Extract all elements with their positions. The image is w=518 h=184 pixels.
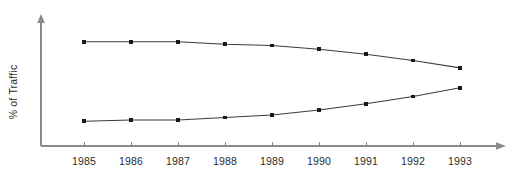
data-point-marker [82, 119, 86, 123]
data-point-marker [176, 40, 180, 44]
x-tick-label-1990: 1990 [307, 155, 331, 167]
chart-figure: 198519861987198819891990199119921993 % o… [0, 0, 518, 184]
data-point-marker [411, 95, 415, 99]
data-point-marker [82, 40, 86, 44]
x-axis-ticks [84, 142, 460, 147]
data-point-marker [364, 52, 368, 56]
data-point-marker [129, 118, 133, 122]
data-point-marker [458, 86, 462, 90]
data-point-marker [176, 118, 180, 122]
x-axis-tick-labels: 198519861987198819891990199119921993 [72, 155, 472, 167]
x-tick-label-1988: 1988 [213, 155, 237, 167]
data-point-marker [270, 113, 274, 117]
x-tick-label-1985: 1985 [72, 155, 96, 167]
data-point-marker [223, 42, 227, 46]
data-point-marker [270, 44, 274, 48]
data-point-marker [129, 40, 133, 44]
y-axis-title: % of Traffic [7, 65, 19, 120]
data-point-marker [317, 47, 321, 51]
data-point-marker [364, 102, 368, 106]
x-tick-label-1989: 1989 [260, 155, 284, 167]
data-point-marker [458, 66, 462, 70]
x-axis-arrow-right-icon [496, 142, 506, 149]
x-tick-label-1987: 1987 [166, 155, 190, 167]
data-point-marker [317, 108, 321, 112]
line-chart-plot: 198519861987198819891990199119921993 % o… [0, 0, 518, 184]
y-axis-arrow-up-icon [37, 14, 45, 23]
data-point-marker [223, 116, 227, 120]
data-point-marker [411, 59, 415, 63]
x-tick-label-1993: 1993 [448, 155, 472, 167]
series-layer [82, 40, 462, 123]
x-tick-label-1986: 1986 [119, 155, 143, 167]
x-tick-label-1992: 1992 [401, 155, 425, 167]
x-tick-label-1991: 1991 [354, 155, 378, 167]
